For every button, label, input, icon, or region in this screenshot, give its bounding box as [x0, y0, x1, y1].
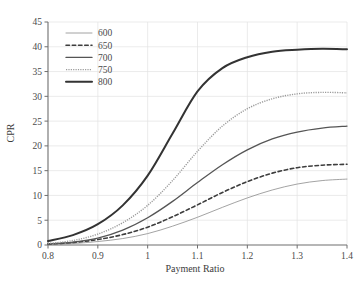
legend-label-800: 800 — [98, 77, 113, 87]
legend-label-750: 750 — [98, 65, 113, 75]
chart-background — [0, 0, 360, 285]
y-tick-label: 15 — [33, 166, 43, 176]
x-tick-label: 1 — [145, 251, 150, 261]
y-tick-label: 30 — [33, 92, 43, 102]
y-tick-label: 40 — [33, 42, 43, 52]
x-tick-label: 0.9 — [92, 251, 104, 261]
x-tick-label: 1.2 — [241, 251, 253, 261]
legend-label-600: 600 — [98, 28, 113, 38]
y-tick-label: 35 — [33, 67, 43, 77]
x-tick-label: 0.8 — [42, 251, 54, 261]
y-tick-label: 25 — [33, 117, 43, 127]
y-tick-label: 0 — [37, 240, 42, 250]
y-tick-label: 10 — [33, 191, 43, 201]
chart-container: 051015202530354045 0.80.911.11.21.31.4 6… — [0, 0, 360, 285]
y-tick-label: 20 — [33, 141, 43, 151]
legend-label-650: 650 — [98, 41, 113, 51]
cpr-payment-ratio-chart: 051015202530354045 0.80.911.11.21.31.4 6… — [0, 0, 360, 285]
y-axis-title: CPR — [5, 123, 16, 142]
x-axis-title: Payment Ratio — [165, 263, 224, 274]
legend-label-700: 700 — [98, 53, 113, 63]
y-tick-label: 45 — [33, 17, 43, 27]
y-tick-label: 5 — [37, 216, 42, 226]
x-tick-label: 1.1 — [192, 251, 204, 261]
x-tick-label: 1.4 — [341, 251, 353, 261]
x-tick-label: 1.3 — [291, 251, 303, 261]
